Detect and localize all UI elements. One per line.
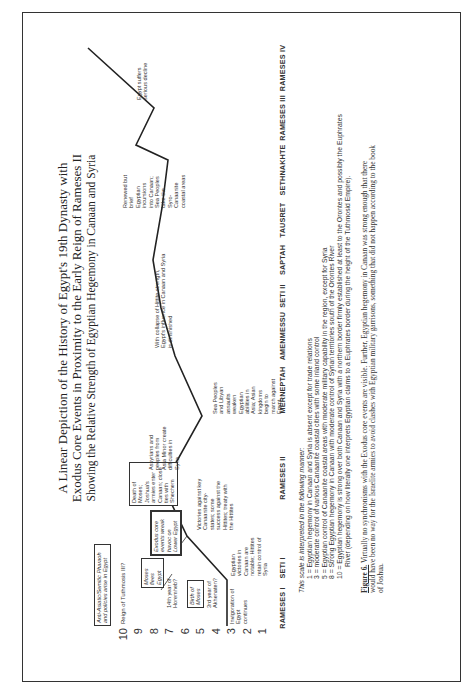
legend-row-1: 1 = Egyptian hegemony in Canaan and Syri… [306,114,314,593]
box-moses-flees: Moses flees Egypt [141,558,164,588]
figure-caption-text: Virtually no synchronisms with the Exodu… [360,145,385,593]
legend-row-5: 5 = Egyptian control of Canaanite coasta… [321,114,329,593]
annotation-sea-peoples: Sea Peoples and Libyan assaults weaken E… [212,378,282,414]
legend-heading: This scale is interpreted in the followi… [298,114,306,593]
annotation-hittite-collapse: With collapse of Hittite strength, Egypt… [154,252,173,348]
king-rameses-i: RAMESES I [278,587,287,628]
box-birth-of-moses: Birth of Moses [187,580,204,608]
king-rameses-ii: RAMESES II [278,456,287,500]
scale-legend: This scale is interpreted in the followi… [298,114,351,593]
king-saptah: SAPTAH [278,245,287,275]
box-anti-asiatic: Anti-Asiatic/Semitic Pharaoh and policie… [94,544,111,626]
king-rameses-iv: RAMESES IV [278,45,287,91]
annotation-egypt-decline: Egypt suffers serious decline [136,60,149,100]
king-merneptah: MERNEPTAH [278,367,287,414]
king-sethnakhte: SETHNAKHTE [278,144,287,195]
annotation-renewed-incursions: Renewed but brief Egyptian incursions in… [122,174,186,208]
legend-row-3: 3 = moderate control of various Canaanit… [313,114,321,593]
annotation-assyrians: Assyrians and peoples from Asia Minor cr… [148,426,180,470]
king-rameses-iii: RAMESES III [278,95,287,141]
legend-row-10-cont: River (depending on how literally one in… [344,114,352,593]
king-seti-ii: SETI II [278,284,287,307]
king-seti-i: SETI I [278,557,287,578]
legend-row-8: 8 = Strong Egyptian hegemony in Canaan w… [328,114,336,593]
box-exodus-core: Exodus core events wreak havoc on Lower … [150,510,182,556]
legend-row-10: 10 = Egyptian hegemony is strong over bo… [336,114,344,593]
rotated-figure: A Linear Depiction of the History of Egy… [16,8,436,648]
annotation-rameses-victories: Victories against key Canaanite city-sta… [196,478,234,530]
king-amenmessu: AMENMESSU [278,312,287,361]
figure-caption: Figure 6. Virtually no synchronisms with… [361,143,386,593]
annotation-seti-victories: Egyptian victories in Canaan are notable… [230,536,268,576]
king-tausret: TAUSRET [278,203,287,238]
